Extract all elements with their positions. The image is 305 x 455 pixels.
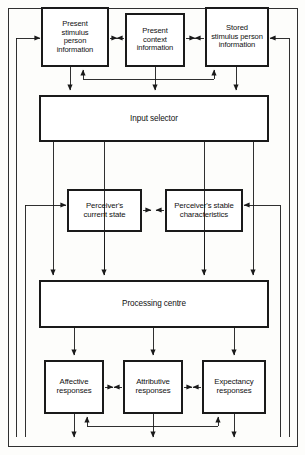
diagram-svg bbox=[0, 0, 305, 455]
edge-feedback-bus-top bbox=[83, 70, 214, 79]
edge-right-return-to-box3 bbox=[270, 38, 289, 437]
box-expectancy-responses bbox=[203, 361, 265, 413]
box-perceivers-current-state bbox=[68, 190, 141, 231]
box-stored-stimulus-person-information bbox=[206, 8, 268, 66]
edge-left-return-to-box1 bbox=[16, 38, 40, 437]
box-attributive-responses bbox=[124, 361, 182, 413]
edge-responses-to-bottom-bus bbox=[74, 413, 234, 437]
diagram-canvas: Present stimulus person information Pres… bbox=[0, 0, 305, 455]
box-input-selector bbox=[40, 96, 268, 141]
box-present-stimulus-person-information bbox=[42, 8, 108, 66]
box-affective-responses bbox=[45, 361, 103, 413]
box-processing-centre bbox=[40, 281, 268, 327]
box-present-context-information bbox=[126, 14, 184, 66]
edge-response-bus-feedback bbox=[87, 417, 218, 426]
